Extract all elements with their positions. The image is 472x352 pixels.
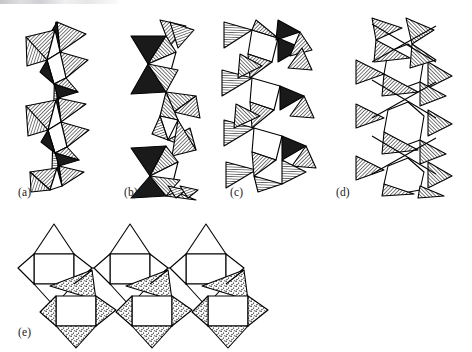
figure-root: (a) (b) (c) (d) (e) xyxy=(0,0,472,352)
panel-a-single-chain xyxy=(26,22,89,192)
panel-label-c: (c) xyxy=(230,186,243,198)
panel-d-hex-rings xyxy=(384,44,424,194)
panel-c-double-chain xyxy=(222,20,316,192)
silicate-structures-figure xyxy=(0,0,472,352)
panel-label-d: (d) xyxy=(336,186,350,198)
panel-e-unit-1 xyxy=(18,224,116,348)
panel-e-sheet-structure xyxy=(18,224,268,348)
panel-e-unit-2 xyxy=(94,224,192,348)
panel-c-inner-rhombs xyxy=(248,30,282,160)
panel-label-e: (e) xyxy=(18,326,31,338)
panel-b-unit-2 xyxy=(131,146,198,200)
panel-label-b: (b) xyxy=(124,186,138,198)
panel-b-zigzag-chain xyxy=(131,20,200,200)
panel-e-unit-3 xyxy=(170,224,268,348)
panel-d-amphibole-chain xyxy=(356,18,452,198)
panel-c-right-column xyxy=(276,20,316,168)
panel-label-a: (a) xyxy=(18,186,31,198)
